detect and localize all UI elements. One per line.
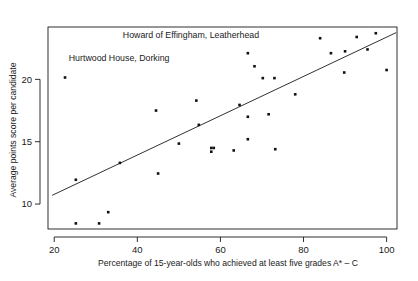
x-axis-title: Percentage of 15-year-olds who achieved … [98, 258, 358, 268]
data-point [253, 65, 256, 68]
y-tick-label: 20 [21, 74, 32, 85]
data-point [247, 115, 250, 118]
chart-page: 20406080100101520 Howard of Effingham, L… [0, 0, 418, 281]
x-tick-label: 40 [132, 244, 143, 255]
data-point [210, 147, 213, 150]
y-tick-label: 10 [21, 198, 32, 209]
data-point [343, 71, 346, 74]
data-point [98, 222, 101, 225]
point-annotations: Howard of Effingham, LeatherheadHurtwood… [69, 30, 259, 63]
data-point [267, 113, 270, 116]
axis-ticks [35, 79, 387, 242]
annotation-label: Hurtwood House, Dorking [69, 53, 170, 63]
data-point [157, 172, 160, 175]
data-point [212, 147, 215, 150]
data-point [247, 138, 250, 141]
data-point [64, 76, 67, 79]
data-point [385, 69, 388, 72]
annotation-label: Howard of Effingham, Leatherhead [123, 30, 259, 40]
data-point [238, 104, 241, 107]
scatter-plot: 20406080100101520 Howard of Effingham, L… [0, 0, 418, 281]
x-tick-label: 80 [298, 244, 309, 255]
data-point [247, 52, 250, 55]
x-tick-label: 100 [379, 244, 395, 255]
data-point [195, 99, 198, 102]
data-point [75, 178, 78, 181]
data-point [294, 93, 297, 96]
data-point [178, 142, 181, 145]
data-point [232, 149, 235, 152]
x-tick-label: 20 [49, 244, 60, 255]
data-point [262, 77, 265, 80]
y-tick-label: 15 [21, 136, 32, 147]
data-point [344, 50, 347, 53]
data-point [355, 36, 358, 39]
axis-tick-labels: 20406080100101520 [21, 74, 394, 255]
data-point [107, 211, 110, 214]
data-point [198, 124, 201, 127]
y-axis-title: Average points score per candidate [8, 62, 18, 197]
data-point [155, 109, 158, 112]
data-point [274, 148, 277, 151]
data-point [210, 150, 213, 153]
data-point [366, 48, 369, 51]
x-tick-label: 60 [215, 244, 226, 255]
data-point [330, 52, 333, 55]
data-point [75, 222, 78, 225]
data-point [375, 32, 378, 35]
data-point [319, 37, 322, 40]
data-point [119, 162, 122, 165]
data-point [273, 77, 276, 80]
